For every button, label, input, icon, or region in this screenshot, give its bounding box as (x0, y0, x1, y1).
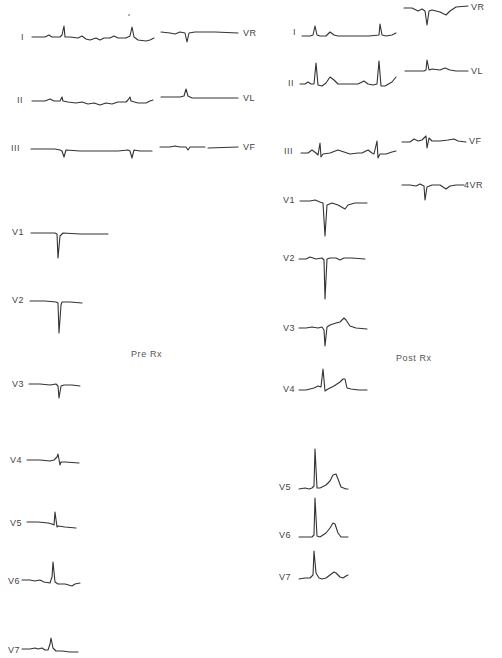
trace-pre-V5 (27, 512, 76, 528)
trace-post-V1 (300, 200, 367, 236)
trace-pre-VF (160, 146, 238, 150)
trace-pre-V3 (29, 384, 80, 398)
trace-pre-V1 (31, 233, 108, 258)
trace-post-V6 (299, 498, 348, 537)
trace-pre-II (32, 97, 153, 105)
trace-pre-VL (161, 89, 238, 98)
trace-post-V5 (299, 449, 348, 489)
trace-post-III (301, 141, 396, 158)
ecg-traces (0, 0, 502, 658)
trace-post-4VR (402, 184, 464, 200)
trace-post-VF (402, 136, 466, 148)
trace-pre-V4 (27, 454, 79, 465)
trace-post-V2 (299, 257, 365, 299)
trace-pre-V2 (30, 301, 82, 333)
trace-post-I (302, 24, 396, 36)
trace-post-V3 (299, 318, 367, 346)
trace-post-VR (404, 6, 468, 25)
trace-post-V4 (299, 369, 367, 391)
trace-pre-VR (161, 32, 238, 42)
trace-post-VL (405, 60, 468, 71)
trace-post-V7 (299, 551, 348, 579)
trace-pre-I (32, 26, 154, 41)
trace-post-II (300, 61, 396, 86)
trace-pre-V6 (22, 562, 80, 586)
trace-pre-V7 (22, 638, 78, 652)
trace-pre-III (31, 149, 152, 158)
